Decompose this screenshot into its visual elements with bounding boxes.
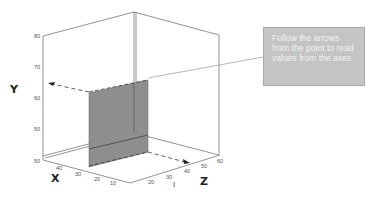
y-axis-ticks: 80 70 60 50: [34, 33, 40, 132]
svg-text:20: 20: [148, 179, 154, 185]
z-axis-label: Z: [200, 175, 208, 188]
svg-text:20: 20: [94, 176, 100, 182]
i-axis-label: I: [173, 180, 175, 189]
svg-text:30: 30: [166, 174, 172, 180]
svg-text:80: 80: [34, 33, 40, 39]
svg-text:50: 50: [201, 163, 207, 169]
svg-text:60: 60: [34, 95, 40, 101]
svg-text:50: 50: [34, 126, 40, 132]
svg-text:10: 10: [110, 180, 116, 186]
arrow-to-y-axis: [48, 82, 89, 92]
arrow-to-z-axis: [148, 152, 190, 164]
callout-leader-line: [148, 57, 263, 78]
x-axis-label: X: [51, 172, 60, 185]
svg-text:60: 60: [217, 158, 223, 164]
svg-text:70: 70: [34, 64, 40, 70]
svg-text:30: 30: [75, 171, 81, 177]
svg-text:40: 40: [56, 165, 62, 171]
annotation-callout: Follow the arrows from the point to read…: [263, 27, 365, 86]
svg-text:50: 50: [34, 158, 40, 164]
svg-text:40: 40: [184, 168, 190, 174]
y-axis-label: Y: [9, 83, 19, 96]
